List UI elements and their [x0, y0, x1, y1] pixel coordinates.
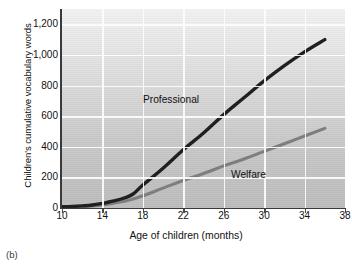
x-tick-mark: [345, 209, 346, 213]
x-axis-title: Age of children (months): [0, 230, 352, 241]
y-tick-label: 200: [24, 172, 58, 182]
series-line-professional: [62, 40, 325, 207]
gridline-horizontal: [62, 116, 345, 117]
y-tick-label: 1,000: [24, 50, 58, 60]
y-tick-label: 600: [24, 111, 58, 121]
x-axis-tick-labels: 1014182226303438: [0, 211, 352, 231]
gridline-horizontal: [62, 147, 345, 148]
gridline-horizontal: [62, 86, 345, 87]
series-label-professional: Professional: [143, 94, 199, 105]
gridline-horizontal: [62, 177, 345, 178]
series-label-welfare: Welfare: [231, 169, 266, 180]
x-tick-mark: [143, 209, 144, 213]
plot-area: [62, 9, 345, 208]
x-tick-mark: [264, 209, 265, 213]
x-tick-mark: [305, 209, 306, 213]
x-tick-mark: [183, 209, 184, 213]
x-tick-mark: [62, 209, 63, 213]
x-tick-mark: [102, 209, 103, 213]
gridline-horizontal: [62, 24, 345, 25]
panel-caption: (b): [6, 249, 18, 260]
y-tick-label: 400: [24, 142, 58, 152]
x-tick-mark: [224, 209, 225, 213]
x-tick-label: 38: [330, 211, 352, 221]
gridline-horizontal: [62, 55, 345, 56]
y-tick-label: 1,200: [24, 19, 58, 29]
figure-panel: Children's cumulative vocabulary words 0…: [0, 0, 352, 268]
y-tick-label: 800: [24, 81, 58, 91]
